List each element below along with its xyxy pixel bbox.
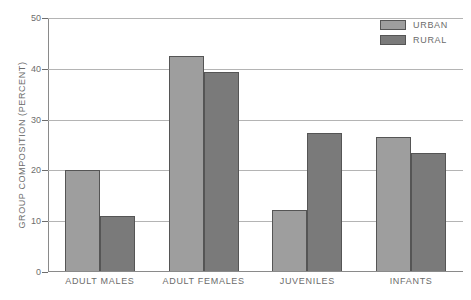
y-axis-tick-mark bbox=[42, 120, 48, 121]
legend-item-urban: URBAN bbox=[380, 20, 448, 30]
y-axis-tick-mark bbox=[42, 221, 48, 222]
legend-label-rural: RURAL bbox=[413, 35, 447, 45]
bar-urban-infants bbox=[376, 137, 411, 272]
y-axis-line bbox=[48, 18, 49, 272]
y-axis-tick-mark bbox=[42, 69, 48, 70]
x-axis-label-infants: INFANTS bbox=[390, 276, 433, 286]
x-axis-label-adult-females: ADULT FEMALES bbox=[162, 276, 244, 286]
legend: URBAN RURAL bbox=[380, 20, 448, 50]
legend-label-urban: URBAN bbox=[413, 20, 448, 30]
bar-chart: GROUP COMPOSITION (PERCENT) 01020304050 … bbox=[0, 0, 471, 300]
bar-urban-juveniles bbox=[272, 210, 307, 272]
y-axis-tick-mark bbox=[42, 272, 48, 273]
gridline bbox=[48, 18, 463, 19]
bar-urban-adult-females bbox=[169, 56, 204, 272]
x-axis-label-juveniles: JUVENILES bbox=[280, 276, 335, 286]
y-axis-tick-label: 0 bbox=[36, 267, 41, 277]
y-axis-tick-label: 30 bbox=[31, 115, 41, 125]
bar-urban-adult-males bbox=[65, 170, 100, 272]
bar-rural-juveniles bbox=[307, 133, 342, 272]
y-axis-title: GROUP COMPOSITION (PERCENT) bbox=[17, 30, 27, 260]
legend-swatch-urban-icon bbox=[380, 20, 406, 30]
y-axis-tick-mark bbox=[42, 18, 48, 19]
y-axis-tick-label: 20 bbox=[31, 165, 41, 175]
plot-area: 01020304050 ADULT MALESADULT FEMALESJUVE… bbox=[48, 18, 463, 272]
bar-rural-infants bbox=[411, 153, 446, 272]
x-axis-label-adult-males: ADULT MALES bbox=[65, 276, 134, 286]
legend-swatch-rural-icon bbox=[380, 35, 406, 45]
bar-rural-adult-males bbox=[100, 216, 135, 272]
y-axis-tick-mark bbox=[42, 170, 48, 171]
y-axis-tick-label: 40 bbox=[31, 64, 41, 74]
y-axis-tick-label: 50 bbox=[31, 13, 41, 23]
bar-rural-adult-females bbox=[204, 72, 239, 272]
legend-item-rural: RURAL bbox=[380, 35, 448, 45]
x-axis-line bbox=[48, 271, 463, 272]
gridline bbox=[48, 69, 463, 70]
y-axis-tick-label: 10 bbox=[31, 216, 41, 226]
gridline bbox=[48, 120, 463, 121]
